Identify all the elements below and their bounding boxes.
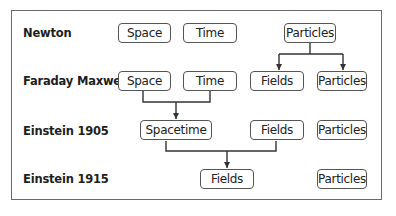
row-label-einstein-1905: Einstein 1905: [23, 124, 109, 138]
node-e1915-particles: Particles: [317, 169, 367, 189]
node-fm-time: Time: [183, 71, 237, 91]
row-label-faraday-maxwell: Faraday Maxwell: [23, 74, 128, 88]
node-newton-time: Time: [183, 23, 237, 43]
node-fm-fields: Fields: [250, 71, 304, 91]
row-label-newton: Newton: [23, 26, 71, 40]
node-fm-space: Space: [118, 71, 171, 91]
node-fm-particles: Particles: [317, 71, 367, 91]
node-e1905-spacetime: Spacetime: [140, 120, 212, 140]
node-e1905-particles: Particles: [317, 120, 367, 140]
node-newton-space: Space: [118, 23, 171, 43]
node-e1915-fields: Fields: [200, 169, 254, 189]
node-e1905-fields: Fields: [250, 120, 304, 140]
node-newton-particles: Particles: [284, 23, 336, 43]
row-label-einstein-1915: Einstein 1915: [23, 172, 109, 186]
